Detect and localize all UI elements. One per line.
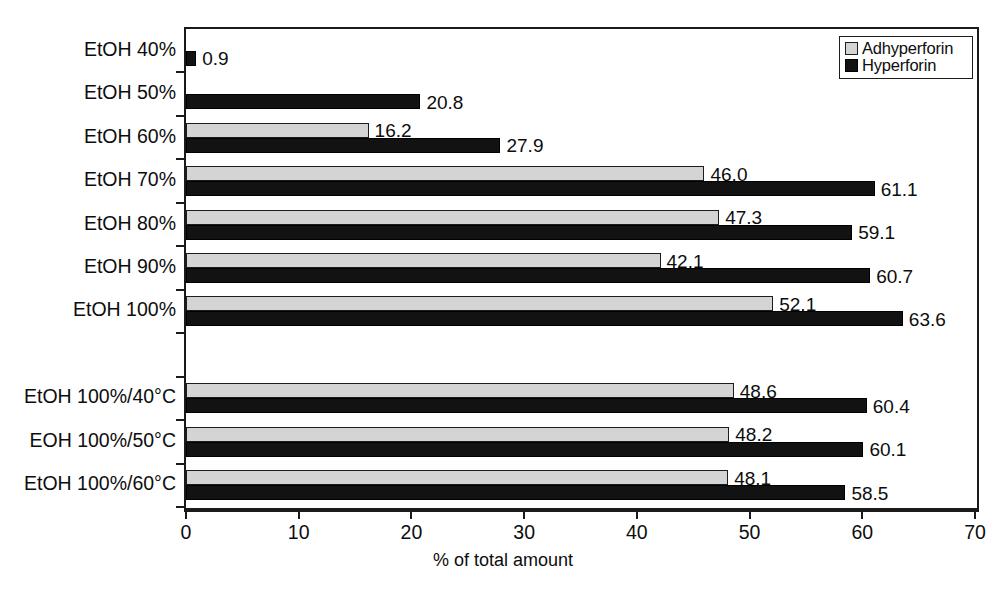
bar-hyperforin	[186, 442, 863, 457]
y-axis-category-label: EtOH 70%	[0, 168, 176, 191]
legend-swatch-hyperforin	[845, 59, 858, 72]
x-axis-line	[184, 508, 977, 510]
bar-adhyperforin	[186, 427, 729, 442]
bar-adhyperforin	[186, 210, 719, 225]
bar-value-label: 61.1	[881, 180, 918, 199]
bar-hyperforin	[186, 398, 867, 413]
bar-value-label: 60.7	[876, 267, 913, 286]
x-axis-tick	[749, 510, 751, 519]
bar-adhyperforin	[186, 123, 369, 138]
bar-hyperforin	[186, 485, 845, 500]
y-axis-category-label: EtOH 40%	[0, 38, 176, 61]
x-axis-tick-label: 30	[513, 521, 535, 544]
bar-value-label: 60.1	[869, 440, 906, 459]
bar-adhyperforin	[186, 470, 728, 485]
x-axis-tick	[974, 510, 976, 519]
x-axis-tick-label: 60	[851, 521, 873, 544]
y-axis-category-label: EtOH 90%	[0, 255, 176, 278]
y-axis-category-label: EtOH 60%	[0, 125, 176, 148]
x-axis-title: % of total amount	[0, 550, 1006, 571]
bar-value-label: 27.9	[506, 136, 543, 155]
bar-adhyperforin	[186, 296, 773, 311]
x-axis-tick-label: 40	[626, 521, 648, 544]
chart-legend: Adhyperforin Hyperforin	[839, 36, 973, 79]
y-axis-tick	[176, 463, 185, 465]
bar-value-label: 63.6	[909, 310, 946, 329]
bar-value-label: 58.5	[851, 484, 888, 503]
y-axis-tick	[176, 71, 185, 73]
y-axis-category-label: EtOH 80%	[0, 212, 176, 235]
y-axis-category-label: EtOH 100%/40°C	[0, 385, 176, 408]
x-axis-tick	[861, 510, 863, 519]
x-axis-tick-label: 10	[288, 521, 310, 544]
x-axis-tick-label: 50	[739, 521, 761, 544]
bar-hyperforin	[186, 138, 500, 153]
y-axis-category-label: EtOH 50%	[0, 81, 176, 104]
y-axis-tick	[176, 245, 185, 247]
bar-chart: EtOH 40%EtOH 50%EtOH 60%EtOH 70%EtOH 80%…	[0, 0, 1006, 594]
legend-label-hyperforin: Hyperforin	[862, 56, 936, 75]
y-axis-tick	[176, 376, 185, 378]
x-axis-tick-label: 70	[964, 521, 986, 544]
bar-value-label: 20.8	[426, 93, 463, 112]
bar-adhyperforin	[186, 253, 661, 268]
y-axis-tick	[176, 115, 185, 117]
x-axis-tick	[410, 510, 412, 519]
x-axis-tick	[523, 510, 525, 519]
bar-hyperforin	[186, 181, 875, 196]
bar-hyperforin	[186, 225, 852, 240]
y-axis-category-label: EtOH 100%	[0, 298, 176, 321]
y-axis-tick	[176, 289, 185, 291]
y-axis-tick	[176, 419, 185, 421]
y-axis-tick	[176, 202, 185, 204]
bar-hyperforin	[186, 94, 420, 109]
x-axis-tick-label: 20	[401, 521, 423, 544]
bar-hyperforin	[186, 311, 903, 326]
x-axis-tick	[636, 510, 638, 519]
y-axis-category-label: EOH 100%/50°C	[0, 429, 176, 452]
x-axis-tick-label: 0	[181, 521, 192, 544]
bar-value-label: 0.9	[202, 49, 228, 68]
bar-adhyperforin	[186, 383, 734, 398]
x-axis-tick	[185, 510, 187, 519]
bar-hyperforin	[186, 51, 196, 66]
legend-item-hyperforin: Hyperforin	[845, 57, 966, 74]
bar-value-label: 59.1	[858, 223, 895, 242]
x-axis-tick	[298, 510, 300, 519]
legend-swatch-adhyperforin	[845, 42, 858, 55]
bar-value-label: 60.4	[873, 397, 910, 416]
y-axis-category-label: EtOH 100%/60°C	[0, 472, 176, 495]
bar-adhyperforin	[186, 166, 704, 181]
bar-hyperforin	[186, 268, 870, 283]
y-axis-tick	[176, 332, 185, 334]
y-axis-tick	[176, 158, 185, 160]
legend-item-adhyperforin: Adhyperforin	[845, 40, 966, 57]
